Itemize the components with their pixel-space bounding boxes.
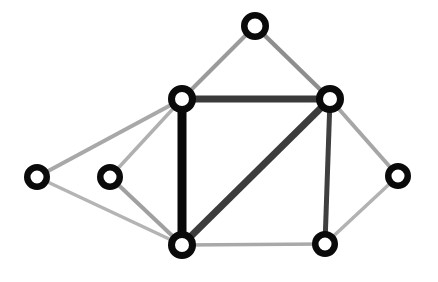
- graph-node: [244, 15, 266, 37]
- graph-edge: [182, 244, 325, 245]
- graph-node: [100, 167, 120, 187]
- graph-diagram: [0, 0, 438, 282]
- graph-node: [315, 234, 335, 254]
- graph-node: [172, 89, 193, 110]
- canvas-background: [0, 0, 438, 282]
- graph-node: [172, 235, 193, 256]
- graph-node: [388, 166, 408, 186]
- graph-node: [27, 167, 47, 187]
- graph-node: [320, 89, 341, 110]
- graph-canvas: [0, 0, 438, 282]
